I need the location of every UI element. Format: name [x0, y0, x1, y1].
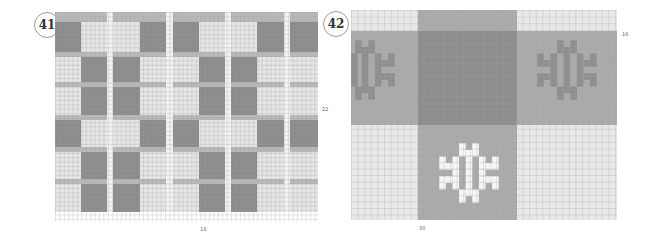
chart-42-number: 42	[328, 17, 345, 31]
chart-42-width-label: 30	[419, 225, 425, 231]
chart-41-number: 41	[39, 18, 56, 32]
chart-41-width-label: 18	[200, 226, 206, 232]
chart-41-plaid-grid	[55, 12, 318, 222]
chart-42-height-label: 16	[622, 31, 628, 37]
chart-41-height-label: 22	[322, 106, 328, 112]
chart-42-number-badge: 42	[323, 11, 349, 37]
chart-42-snowflake-grid	[351, 10, 617, 220]
